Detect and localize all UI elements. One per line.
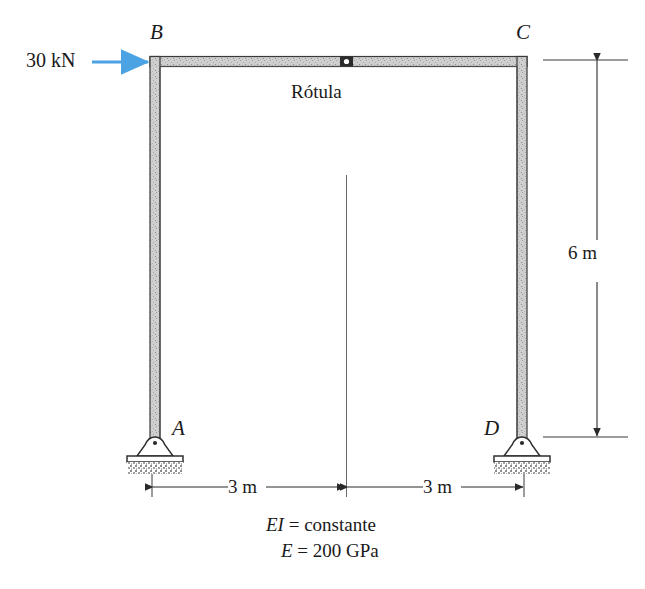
note-stiffness-symbol: EI	[266, 514, 284, 535]
node-label-a: A	[172, 418, 185, 439]
note-stiffness-value: constante	[304, 514, 376, 535]
note-stiffness-eq: =	[289, 514, 300, 535]
figure-canvas: 30 kN B C A D Rótula 3 m 3 m 6 m EI = co…	[0, 0, 645, 589]
note-modulus-eq: =	[297, 540, 308, 561]
note-modulus: E = 200 GPa	[281, 541, 379, 560]
frame-beam-bc	[150, 57, 527, 67]
load-label: 30 kN	[26, 50, 75, 70]
dimension-height-label: 6 m	[568, 243, 597, 262]
hinge-marker-icon	[340, 57, 353, 67]
support-a-pin-icon	[127, 437, 183, 474]
dimension-horizontal-group	[152, 175, 524, 497]
dimension-left-span-label: 3 m	[228, 477, 257, 496]
hinge-label: Rótula	[291, 82, 342, 101]
note-stiffness: EI = constante	[266, 515, 376, 534]
support-d-pin-icon	[494, 437, 550, 474]
node-label-d: D	[484, 418, 499, 439]
node-label-c: C	[516, 22, 530, 43]
node-label-b: B	[150, 22, 163, 43]
note-modulus-value: 200 GPa	[313, 540, 379, 561]
frame-column-cd	[517, 57, 527, 439]
note-modulus-symbol: E	[281, 540, 293, 561]
frame-column-ab	[150, 57, 160, 439]
dimension-right-span-label: 3 m	[423, 477, 452, 496]
